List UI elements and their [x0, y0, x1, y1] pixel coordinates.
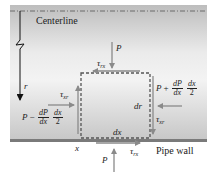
r-axis-label: r [24, 82, 28, 91]
r-axis-arrow [16, 11, 24, 100]
left-shear-label: τxr [60, 90, 68, 100]
dx-label: dx [113, 128, 122, 137]
top-shear-label: τrx [97, 59, 105, 69]
top-pressure-label: P [116, 44, 122, 53]
right-shear-label: τxr [156, 115, 164, 125]
bottom-shear-label: τrx [130, 147, 138, 157]
x-position-label: x [75, 144, 79, 153]
bottom-pressure-label: P [102, 156, 108, 165]
centerline-label: Centerline [36, 16, 78, 26]
pipe-wall-label: Pipe wall [156, 146, 194, 156]
right-pressure-label: P + dPdx dx2 [156, 80, 198, 97]
left-pressure-label: P − dPdx dx2 [22, 109, 64, 126]
dr-label: dr [134, 102, 142, 111]
